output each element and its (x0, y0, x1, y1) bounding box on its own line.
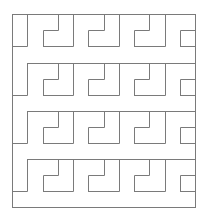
key-hook (181, 112, 196, 144)
key-hook (44, 15, 59, 47)
key-hook (44, 112, 59, 144)
key-hook (89, 160, 105, 192)
meander-pattern (0, 0, 209, 215)
left-tooth (13, 64, 28, 96)
meander-rows (13, 15, 196, 192)
key-hook (181, 160, 196, 192)
left-tooth (13, 15, 28, 47)
key-hook (89, 15, 105, 47)
key-hook (135, 64, 150, 96)
key-hook (181, 64, 196, 96)
left-tooth (13, 160, 28, 192)
left-tooth (13, 112, 28, 144)
meander-row (13, 15, 196, 47)
key-hook (44, 64, 59, 96)
key-hook (135, 15, 150, 47)
meander-row (13, 160, 196, 192)
meander-row (13, 112, 196, 144)
key-hook (89, 64, 105, 96)
key-hook (89, 112, 105, 144)
key-hook (44, 160, 59, 192)
key-hook (181, 15, 196, 47)
meander-row (13, 64, 196, 96)
key-hook (135, 160, 150, 192)
key-hook (135, 112, 150, 144)
